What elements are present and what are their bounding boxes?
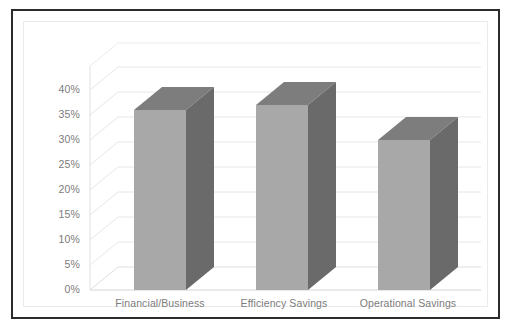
y-axis-tick-label: 15% [32,209,80,220]
chart-inner-frame: 40% 35% 30% 25% 20% 15% 10% 5% 0% Financ… [23,21,488,307]
y-axis-tick-label: 40% [32,84,80,95]
plot-area [24,22,489,308]
bar-side-face [430,117,458,290]
x-axis-tick-label-operational-savings: Operational Savings [344,297,472,309]
y-axis-tick-label: 0% [32,284,80,295]
bar-operational-savings[interactable] [378,117,458,290]
y-axis-tick-label: 5% [32,259,80,270]
y-axis-tick-label: 10% [32,234,80,245]
bar-financial-business[interactable] [134,87,214,290]
bar-side-face [186,87,214,290]
bar-front-face [134,110,186,290]
bar-efficiency-savings[interactable] [256,82,336,290]
chart-outer-frame: 40% 35% 30% 25% 20% 15% 10% 5% 0% Financ… [11,9,500,319]
bar-chart: 40% 35% 30% 25% 20% 15% 10% 5% 0% Financ… [24,22,489,308]
bar-front-face [378,140,430,290]
x-axis-tick-label-financial-business: Financial/Business [98,297,222,309]
bar-front-face [256,105,308,290]
y-axis-tick-label: 25% [32,159,80,170]
y-axis-tick-label: 30% [32,134,80,145]
x-axis-tick-label-efficiency-savings: Efficiency Savings [222,297,346,309]
bar-side-face [308,82,336,290]
y-axis-tick-label: 35% [32,109,80,120]
y-axis-tick-label: 20% [32,184,80,195]
